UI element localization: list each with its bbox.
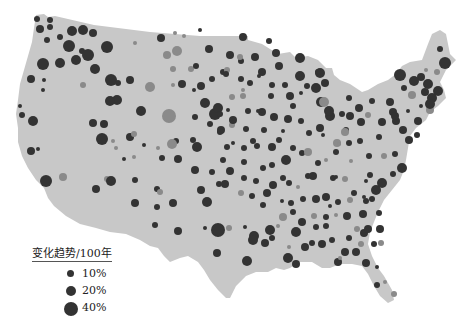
station-increase-marker xyxy=(224,144,230,150)
station-increase-marker xyxy=(249,193,255,199)
station-increase-marker xyxy=(281,155,291,165)
station-increase-marker xyxy=(269,162,275,168)
station-increase-marker xyxy=(357,138,363,144)
station-increase-marker xyxy=(243,225,247,229)
station-decrease-marker xyxy=(80,82,86,88)
station-increase-marker xyxy=(323,214,329,220)
station-increase-marker xyxy=(220,157,226,163)
station-decrease-marker xyxy=(341,128,349,136)
legend-item-40: 40% xyxy=(32,301,112,318)
station-increase-marker xyxy=(213,249,221,257)
station-increase-marker xyxy=(257,74,261,78)
station-increase-marker xyxy=(298,218,306,226)
station-decrease-marker xyxy=(170,66,176,72)
station-decrease-marker xyxy=(434,69,440,75)
station-increase-marker xyxy=(275,62,283,70)
station-increase-marker xyxy=(272,49,280,57)
station-increase-marker xyxy=(311,83,321,93)
station-increase-marker xyxy=(313,224,319,230)
station-increase-marker xyxy=(321,79,329,87)
station-increase-marker xyxy=(243,126,249,132)
station-decrease-marker xyxy=(338,256,342,260)
station-increase-marker xyxy=(226,108,230,112)
station-increase-marker xyxy=(226,51,234,59)
station-increase-marker xyxy=(298,118,304,124)
station-increase-marker xyxy=(28,116,38,126)
station-increase-marker xyxy=(292,260,300,268)
station-increase-marker xyxy=(261,239,269,247)
station-increase-marker xyxy=(193,63,199,69)
station-increase-marker xyxy=(200,98,210,108)
station-increase-marker xyxy=(334,175,338,179)
station-decrease-marker xyxy=(337,142,341,146)
station-increase-marker xyxy=(280,199,284,203)
station-increase-marker xyxy=(329,237,335,243)
station-increase-marker xyxy=(260,165,266,171)
station-increase-marker xyxy=(280,175,286,181)
station-increase-marker xyxy=(268,93,274,99)
station-increase-marker xyxy=(397,163,407,173)
station-decrease-marker xyxy=(334,213,338,217)
station-increase-marker xyxy=(136,106,146,116)
station-increase-marker xyxy=(231,141,235,145)
station-increase-marker xyxy=(261,127,267,133)
station-increase-marker xyxy=(126,76,134,84)
station-decrease-marker xyxy=(241,88,245,92)
station-increase-marker xyxy=(211,223,225,237)
legend-label: 10% xyxy=(82,267,106,280)
station-increase-marker xyxy=(132,177,138,183)
station-decrease-marker xyxy=(167,139,177,149)
station-increase-marker xyxy=(376,225,384,233)
station-increase-marker xyxy=(312,195,320,203)
station-increase-marker xyxy=(67,26,77,36)
station-increase-marker xyxy=(37,58,49,70)
station-increase-marker xyxy=(131,199,139,207)
station-decrease-marker xyxy=(188,66,194,72)
station-increase-marker xyxy=(106,176,116,186)
station-increase-marker xyxy=(269,181,277,189)
station-increase-marker xyxy=(154,204,160,210)
station-increase-marker xyxy=(221,180,229,188)
station-increase-marker xyxy=(205,45,213,53)
station-increase-marker xyxy=(283,253,293,263)
station-increase-marker xyxy=(19,112,25,118)
station-increase-marker xyxy=(41,88,45,92)
station-increase-marker xyxy=(18,104,22,108)
station-increase-marker xyxy=(439,57,451,69)
station-increase-marker xyxy=(216,181,222,187)
station-increase-marker xyxy=(394,69,406,81)
station-increase-marker xyxy=(423,79,433,89)
station-increase-marker xyxy=(27,75,35,83)
station-increase-marker xyxy=(369,196,375,202)
station-increase-marker xyxy=(57,34,63,40)
station-increase-marker xyxy=(355,104,363,112)
station-increase-marker xyxy=(362,259,370,267)
station-decrease-marker xyxy=(173,31,177,35)
station-increase-marker xyxy=(44,37,50,43)
station-increase-marker xyxy=(36,147,40,151)
station-increase-marker xyxy=(159,155,165,161)
station-decrease-marker xyxy=(240,93,246,99)
station-decrease-marker xyxy=(311,213,317,219)
station-increase-marker xyxy=(242,256,252,266)
station-decrease-marker xyxy=(238,190,244,196)
station-increase-marker xyxy=(367,172,373,178)
station-increase-marker xyxy=(239,33,247,41)
station-increase-marker xyxy=(362,195,366,199)
station-decrease-marker xyxy=(349,159,353,163)
station-increase-marker xyxy=(315,69,321,75)
station-increase-marker xyxy=(433,86,443,96)
station-increase-marker xyxy=(241,159,247,165)
station-increase-marker xyxy=(374,282,380,288)
station-increase-marker xyxy=(217,126,225,134)
station-increase-marker xyxy=(343,212,351,220)
station-decrease-marker xyxy=(111,139,115,143)
station-increase-marker xyxy=(47,17,53,23)
station-increase-marker xyxy=(288,200,294,206)
station-decrease-marker xyxy=(287,245,291,249)
station-increase-marker xyxy=(82,49,94,61)
station-increase-marker xyxy=(260,202,266,208)
station-increase-marker xyxy=(209,169,215,175)
legend-item-20: 20% xyxy=(32,284,112,301)
station-increase-marker xyxy=(405,136,413,144)
